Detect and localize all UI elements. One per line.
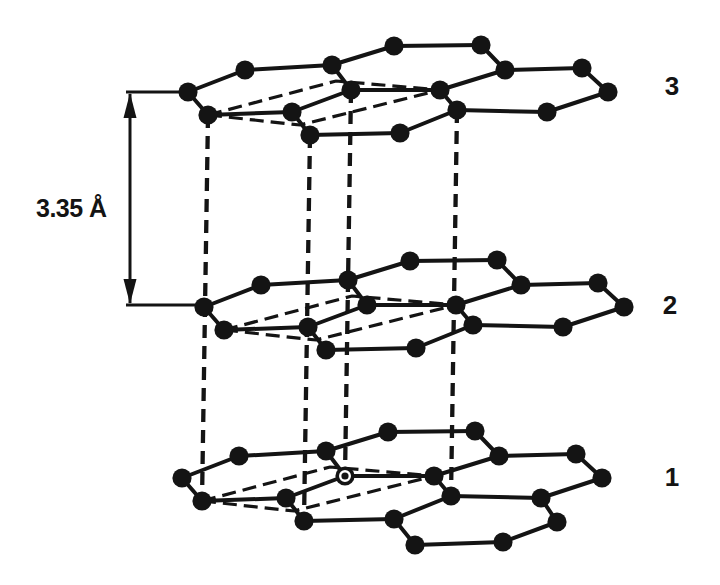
carbon-atom bbox=[531, 488, 550, 507]
in-plane-dashed-ring bbox=[202, 476, 434, 511]
carbon-atom bbox=[384, 509, 403, 528]
in-plane-dashed-ring bbox=[224, 305, 456, 340]
carbon-atom bbox=[300, 125, 319, 144]
interlayer-spacing-arrow bbox=[124, 92, 205, 305]
carbon-atom bbox=[405, 535, 424, 554]
carbon-bond bbox=[304, 519, 394, 521]
carbon-atom bbox=[198, 105, 217, 124]
carbon-atom bbox=[194, 297, 213, 316]
carbon-atom bbox=[463, 315, 482, 334]
layer-label-2: 2 bbox=[658, 292, 682, 318]
carbon-atom bbox=[316, 340, 335, 359]
carbon-atom bbox=[553, 317, 572, 336]
graphite-structure-figure: 3.35 Å 3 2 1 bbox=[0, 0, 720, 585]
carbon-atom bbox=[298, 317, 317, 336]
carbon-atom bbox=[229, 446, 248, 465]
carbon-bond bbox=[456, 285, 521, 305]
in-plane-dashed-ring bbox=[208, 90, 440, 125]
carbon-atom bbox=[441, 486, 460, 505]
carbon-bond bbox=[348, 261, 410, 280]
carbon-bond bbox=[245, 65, 332, 70]
carbon-atom bbox=[537, 102, 556, 121]
carbon-bond bbox=[457, 110, 547, 112]
carbon-bond bbox=[261, 280, 348, 285]
interlayer-spacing-label: 3.35 Å bbox=[36, 196, 107, 221]
layer-label-1: 1 bbox=[660, 464, 684, 490]
graphene-layer-2 bbox=[194, 250, 633, 359]
carbon-bond bbox=[326, 432, 388, 451]
carbon-bond bbox=[547, 92, 608, 112]
carbon-atom bbox=[614, 297, 633, 316]
carbon-bond bbox=[310, 133, 400, 135]
carbon-atom bbox=[406, 338, 425, 357]
carbon-atom bbox=[172, 468, 191, 487]
carbon-bond bbox=[332, 46, 394, 65]
carbon-atom bbox=[471, 35, 490, 54]
carbon-atom bbox=[192, 491, 211, 510]
graphene-layer-1 bbox=[172, 421, 611, 554]
carbon-bond bbox=[563, 307, 624, 327]
carbon-atom bbox=[424, 466, 443, 485]
carbon-bond bbox=[473, 325, 563, 327]
carbon-atom bbox=[322, 55, 341, 74]
carbon-atom bbox=[566, 444, 585, 463]
carbon-bond bbox=[505, 68, 582, 70]
carbon-atom bbox=[378, 422, 397, 441]
carbon-atom bbox=[316, 441, 335, 460]
carbon-bond bbox=[499, 454, 576, 456]
carbon-atom bbox=[214, 320, 233, 339]
carbon-atom bbox=[446, 295, 465, 314]
carbon-bond bbox=[394, 45, 481, 46]
carbon-atom bbox=[489, 446, 508, 465]
carbon-bond bbox=[440, 70, 505, 90]
carbon-atom bbox=[282, 102, 301, 121]
carbon-atom bbox=[572, 58, 591, 77]
carbon-bond bbox=[521, 283, 598, 285]
carbon-bond bbox=[434, 456, 499, 476]
carbon-atom bbox=[338, 270, 357, 289]
carbon-bond bbox=[388, 431, 475, 432]
carbon-atom bbox=[357, 295, 376, 314]
graphite-structure-diagram bbox=[0, 0, 720, 585]
carbon-atom bbox=[335, 466, 354, 485]
carbon-atom bbox=[235, 60, 254, 79]
carbon-bond bbox=[451, 496, 541, 498]
carbon-bond bbox=[239, 451, 326, 456]
carbon-atom bbox=[294, 511, 313, 530]
carbon-atom bbox=[495, 60, 514, 79]
carbon-atom bbox=[251, 275, 270, 294]
carbon-atom bbox=[447, 100, 466, 119]
carbon-atom bbox=[598, 82, 617, 101]
carbon-atom bbox=[341, 80, 360, 99]
carbon-atom bbox=[592, 468, 611, 487]
carbon-bond bbox=[410, 260, 497, 261]
carbon-atom bbox=[390, 123, 409, 142]
carbon-atom bbox=[493, 532, 512, 551]
carbon-atom bbox=[384, 36, 403, 55]
carbon-atom bbox=[276, 488, 295, 507]
carbon-atom bbox=[511, 275, 530, 294]
carbon-atom bbox=[547, 512, 566, 531]
carbon-atom bbox=[430, 80, 449, 99]
arrowhead-down-icon bbox=[124, 279, 137, 304]
carbon-atom bbox=[588, 273, 607, 292]
carbon-atom bbox=[400, 251, 419, 270]
graphene-layer-3 bbox=[178, 35, 617, 144]
layer-label-3: 3 bbox=[660, 73, 684, 99]
arrowhead-up-icon bbox=[124, 93, 137, 118]
carbon-bond bbox=[415, 542, 503, 545]
carbon-atom bbox=[487, 250, 506, 269]
carbon-bond bbox=[326, 348, 416, 350]
carbon-bond bbox=[541, 478, 602, 498]
carbon-atom bbox=[465, 421, 484, 440]
